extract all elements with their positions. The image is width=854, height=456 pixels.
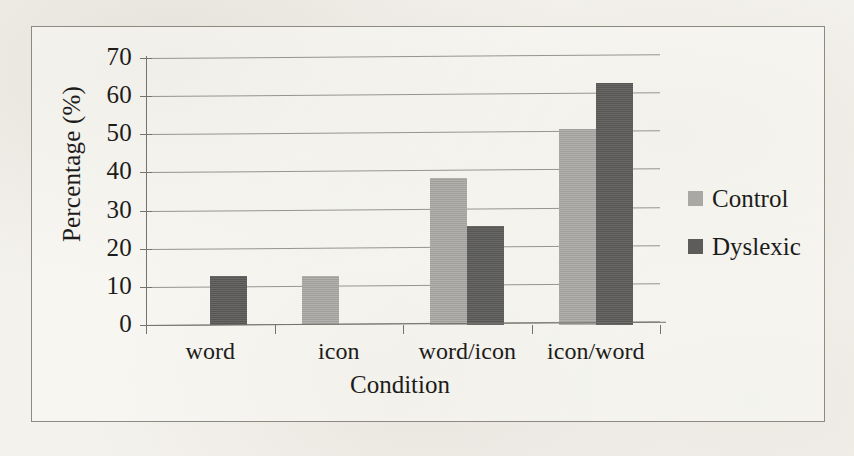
legend-item-control: Control bbox=[688, 186, 801, 211]
y-tick-label-20: 20 bbox=[86, 235, 132, 260]
y-tick-70 bbox=[140, 58, 152, 59]
x-tick-4 bbox=[660, 325, 661, 334]
chart-page: Percentage (%) 706050403020100 wordiconw… bbox=[0, 0, 854, 456]
y-tick-label-30: 30 bbox=[86, 197, 132, 222]
y-tick-30 bbox=[140, 211, 152, 212]
bar-dyslexic-icon-word bbox=[596, 83, 633, 325]
y-tick-label-40: 40 bbox=[86, 158, 132, 183]
legend-label-control: Control bbox=[712, 186, 788, 211]
legend-label-dyslexic: Dyslexic bbox=[712, 234, 801, 259]
x-category-label-word-icon: word/icon bbox=[392, 338, 542, 365]
bar-dyslexic-word-icon bbox=[467, 226, 504, 325]
gridline-60 bbox=[146, 92, 660, 97]
y-tick-60 bbox=[140, 96, 152, 97]
bar-dyslexic-word bbox=[210, 276, 247, 325]
x-tick-3 bbox=[532, 325, 533, 334]
x-tick-1 bbox=[275, 325, 276, 334]
bar-control-icon bbox=[302, 276, 339, 325]
legend-swatch-control-icon bbox=[688, 191, 703, 206]
x-tick-0 bbox=[146, 325, 147, 334]
y-tick-label-60: 60 bbox=[86, 82, 132, 107]
y-tick-label-50: 50 bbox=[86, 120, 132, 145]
x-tick-2 bbox=[403, 325, 404, 334]
chart-legend: ControlDyslexic bbox=[688, 186, 801, 282]
y-tick-50 bbox=[140, 134, 152, 135]
plot-area bbox=[146, 58, 660, 325]
x-category-label-icon-word: icon/word bbox=[521, 338, 671, 365]
y-tick-label-10: 10 bbox=[86, 273, 132, 298]
x-axis-title: Condition bbox=[250, 371, 550, 399]
y-tick-40 bbox=[140, 172, 152, 173]
legend-item-dyslexic: Dyslexic bbox=[688, 234, 801, 259]
x-category-label-icon: icon bbox=[264, 338, 414, 365]
y-axis-title: Percentage (%) bbox=[58, 34, 86, 294]
bar-control-word-icon bbox=[430, 178, 467, 325]
y-tick-label-0: 0 bbox=[86, 311, 132, 336]
x-category-label-word: word bbox=[135, 338, 285, 365]
legend-swatch-dyslexic-icon bbox=[688, 239, 703, 254]
y-tick-20 bbox=[140, 249, 152, 250]
y-tick-label-70: 70 bbox=[86, 44, 132, 69]
y-tick-10 bbox=[140, 287, 152, 288]
bar-control-icon-word bbox=[559, 129, 596, 325]
